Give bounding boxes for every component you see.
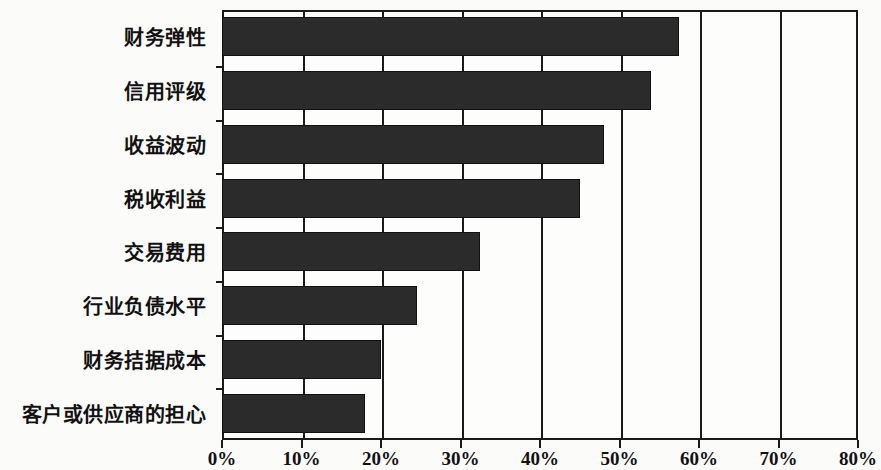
category-label: 信用评级 [124,76,206,105]
category-label-row: 行业负债水平 [0,279,216,333]
bar[interactable] [222,232,480,271]
category-label-row: 交易费用 [0,225,216,279]
bar[interactable] [222,394,365,433]
x-axis-tick-label: 70% [760,448,798,470]
x-axis-tick [778,440,780,448]
x-axis-tick [619,440,621,448]
category-label: 交易费用 [124,237,206,266]
bar-row [222,118,858,172]
x-axis-tick [460,440,462,448]
category-label-row: 税收利益 [0,171,216,225]
bar-row [222,386,858,440]
category-label-row: 客户或供应商的担心 [0,386,216,440]
bar[interactable] [222,125,604,164]
category-label-row: 财务弹性 [0,10,216,64]
category-label: 财务弹性 [124,22,206,51]
bar[interactable] [222,179,580,218]
x-axis-tick-label: 60% [680,448,718,470]
x-axis-tick [857,440,859,448]
x-axis-tick-label: 0% [208,448,237,470]
x-axis-tick [221,440,223,448]
bar[interactable] [222,71,651,110]
bar-row [222,64,858,118]
bar-row [222,225,858,279]
category-label-row: 收益波动 [0,118,216,172]
x-axis-tick [698,440,700,448]
category-label: 税收利益 [124,184,206,213]
bar[interactable] [222,340,381,379]
category-label: 客户或供应商的担心 [22,399,207,428]
x-axis-tick-label: 30% [442,448,480,470]
category-label-row: 财务拮据成本 [0,333,216,387]
x-axis-tick-label: 50% [601,448,639,470]
bar[interactable] [222,286,417,325]
x-axis-tick [539,440,541,448]
bar-row [222,10,858,64]
x-axis-tick-label: 20% [362,448,400,470]
bars-layer [222,10,858,440]
bar-chart: 财务弹性信用评级收益波动税收利益交易费用行业负债水平财务拮据成本客户或供应商的担… [0,0,881,470]
x-axis-tick-label: 80% [839,448,877,470]
category-label: 财务拮据成本 [83,345,206,374]
x-axis-tick [301,440,303,448]
x-axis-tick-label: 40% [521,448,559,470]
bar-row [222,333,858,387]
category-label: 收益波动 [124,130,206,159]
x-axis-tick-labels: 0%10%20%30%40%50%60%70%80% [0,448,881,470]
category-labels: 财务弹性信用评级收益波动税收利益交易费用行业负债水平财务拮据成本客户或供应商的担… [0,10,216,440]
bar[interactable] [222,17,679,56]
category-label-row: 信用评级 [0,64,216,118]
bar-row [222,279,858,333]
x-axis-tick-label: 10% [283,448,321,470]
x-axis-tick [380,440,382,448]
bar-row [222,171,858,225]
category-label: 行业负债水平 [83,291,206,320]
